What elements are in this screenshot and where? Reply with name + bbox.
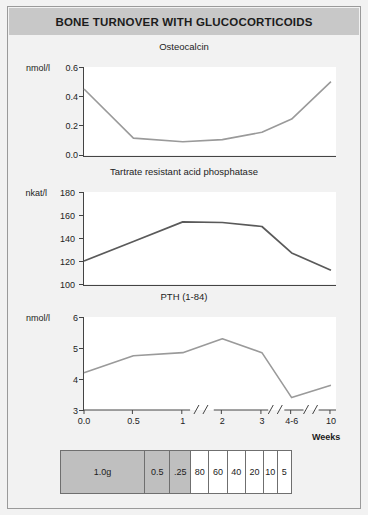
dose-cell-2: .25 (170, 451, 191, 493)
ytick-trap-1: 160 (49, 211, 75, 221)
ytickmark-pth-1 (79, 348, 83, 349)
dose-cell-6: 20 (246, 451, 264, 493)
ytick-pth-2: 4 (52, 375, 78, 385)
figure-title: BONE TURNOVER WITH GLUCOCORTICOIDS (55, 16, 312, 28)
panel-title-osteocalcin: Osteocalcin (0, 41, 368, 52)
figure-title-banner: BONE TURNOVER WITH GLUCOCORTICOIDS (9, 8, 359, 35)
x-tick-label-4: 3 (259, 416, 264, 426)
ytickmark-trap-4 (79, 284, 83, 285)
ytick-trap-3: 120 (49, 257, 75, 267)
ytick-pth-0: 6 (52, 313, 78, 323)
series-line-osteocalcin (84, 67, 336, 155)
ytick-osteocalcin-1: 0.4 (52, 92, 78, 102)
series-line-pth (84, 317, 336, 410)
panel-title-pth: PTH (1-84) (0, 291, 368, 302)
ytick-osteocalcin-0: 0.6 (52, 63, 78, 73)
ytick-trap-2: 140 (49, 234, 75, 244)
xaxis-trap (83, 285, 336, 286)
ytick-pth-3: 3 (52, 406, 78, 416)
dose-cell-1: 0.5 (145, 451, 170, 493)
ytickmark-osteocalcin-1 (79, 96, 83, 97)
xaxis-osteocalcin (83, 156, 336, 157)
x-tick-label-6: 10 (326, 416, 336, 426)
x-tick-label-5: 4-6 (285, 416, 298, 426)
ytickmark-pth-2 (79, 379, 83, 380)
x-tick-label-1: 0.5 (127, 416, 140, 426)
ytickmark-trap-0 (79, 192, 83, 193)
ytickmark-osteocalcin-2 (79, 125, 83, 126)
ytickmark-pth-0 (79, 317, 83, 318)
dose-table: 1.0g0.5.2580604020105 (60, 450, 292, 494)
panel-title-trap: Tartrate resistant acid phosphatase (0, 166, 368, 177)
ytick-osteocalcin-2: 0.2 (52, 121, 78, 131)
ytick-osteocalcin-3: 0.0 (52, 150, 78, 160)
series-line-trap (84, 192, 336, 284)
y-unit-pth: nmol/l (16, 313, 50, 323)
dose-cell-0: 1.0g (61, 451, 145, 493)
dose-cell-5: 40 (228, 451, 246, 493)
ytickmark-osteocalcin-0 (79, 67, 83, 68)
x-tick-label-2: 1 (180, 416, 185, 426)
ytick-trap-0: 180 (49, 188, 75, 198)
ytickmark-trap-3 (79, 261, 83, 262)
x-tick-label-3: 2 (220, 416, 225, 426)
x-axis-label-weeks: Weeks (312, 432, 340, 442)
ytickmark-trap-2 (79, 238, 83, 239)
x-tick-label-0: 0.0 (78, 416, 91, 426)
ytickmark-osteocalcin-3 (79, 155, 83, 156)
ytick-trap-4: 100 (49, 280, 75, 290)
figure-root: BONE TURNOVER WITH GLUCOCORTICOIDS Osteo… (0, 0, 368, 515)
y-unit-osteocalcin: nmol/l (16, 63, 50, 73)
dose-cell-4: 60 (209, 451, 227, 493)
dose-cell-8: 5 (278, 451, 291, 493)
dose-cell-3: 80 (191, 451, 209, 493)
ytick-pth-1: 5 (52, 344, 78, 354)
y-unit-trap: nkat/l (13, 188, 47, 198)
dose-cell-7: 10 (264, 451, 277, 493)
ytickmark-trap-1 (79, 215, 83, 216)
x-axis-line-and-breaks (83, 404, 339, 420)
